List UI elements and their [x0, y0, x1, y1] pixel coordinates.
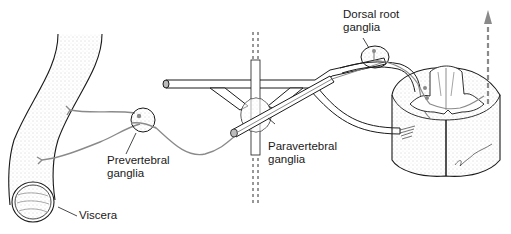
prevertebral-ganglion [131, 108, 156, 132]
viscera-label-text: Viscera [79, 209, 117, 221]
dorsal-root-pointer [363, 38, 369, 48]
paravertebral-label-line1: Paravertebral [268, 140, 337, 153]
prevertebral-pointer [126, 133, 136, 154]
dorsal-root-label-line2: ganglia [343, 21, 399, 34]
paravertebral-label-line2: ganglia [268, 153, 337, 166]
viscera-label: Viscera [79, 209, 117, 222]
viscera-tube [9, 34, 102, 222]
prevertebral-label-line2: ganglia [107, 167, 170, 180]
prevertebral-label-line1: Prevertebral [107, 154, 170, 167]
paravertebral-ganglion [241, 60, 271, 155]
anatomy-diagram [0, 0, 511, 234]
dorsal-root-label-line1: Dorsal root [343, 8, 399, 21]
prevertebral-ganglia-label: Prevertebral ganglia [107, 154, 170, 180]
viscera-pointer [58, 207, 77, 216]
paravertebral-ganglia-label: Paravertebral ganglia [268, 140, 337, 166]
dorsal-root-ganglia-label: Dorsal root ganglia [343, 8, 399, 34]
splanchnic-fiber [155, 127, 235, 155]
ramus-tube [163, 58, 400, 134]
spinal-cord-section [392, 66, 500, 176]
